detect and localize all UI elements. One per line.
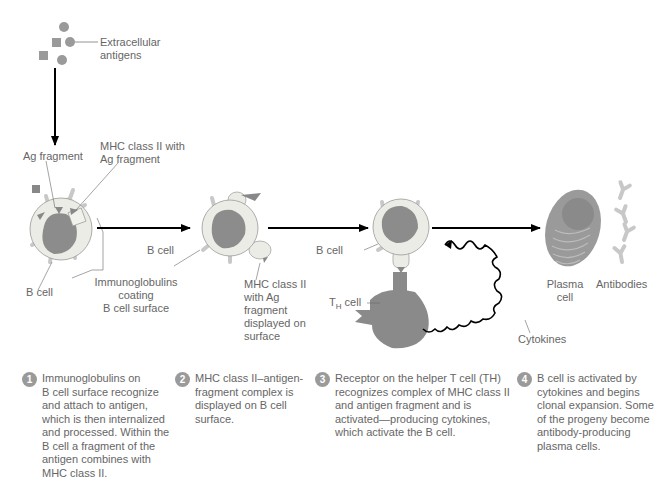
step-number-badge: 3 (315, 372, 330, 387)
label-immunoglobulins: Immunoglobulins coating B cell surface (92, 276, 180, 315)
antibodies (614, 182, 633, 263)
step-text: B cell is activated by cytokines and beg… (537, 372, 654, 453)
label-extracellular-antigens: Extracellular antigens (100, 36, 161, 62)
plasma-cell (537, 183, 609, 272)
label-mhc-displayed: MHC class II with Ag fragment displayed … (244, 278, 306, 343)
label-b-cell-1: B cell (26, 286, 53, 299)
label-plasma-cell: Plasma cell (540, 278, 590, 304)
label-th-cell: TH cell (329, 296, 361, 313)
step-number-badge: 4 (517, 372, 532, 387)
extracellular-antigens (39, 22, 98, 65)
step-text: MHC class II–antigen- fragment complex i… (195, 372, 303, 426)
label-b-cell-3: B cell (316, 244, 343, 257)
cytokines-wave (423, 241, 502, 332)
step-number-badge: 1 (22, 372, 37, 387)
b-cell-3 (373, 199, 429, 273)
step-text: Immunoglobulins on B cell surface recogn… (42, 372, 169, 480)
step-text: Receptor on the helper T cell (TH) recog… (335, 372, 510, 440)
label-antibodies: Antibodies (596, 278, 647, 291)
label-cytokines: Cytokines (518, 333, 566, 346)
label-mhc-with-ag: MHC class II with Ag fragment (100, 140, 185, 166)
b-cell-1 (30, 185, 93, 263)
th-cell (355, 272, 429, 348)
b-cell-2 (200, 192, 271, 263)
label-b-cell-2: B cell (147, 244, 174, 257)
label-ag-fragment: Ag fragment (23, 150, 83, 163)
step-number-badge: 2 (175, 372, 190, 387)
